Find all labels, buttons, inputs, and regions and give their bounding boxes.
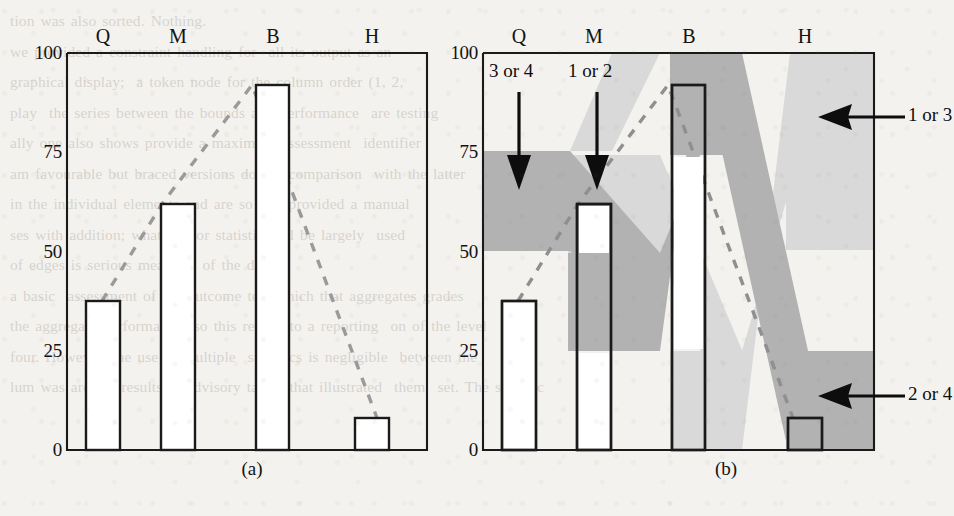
panel-b-bar-M-fill-top (579, 206, 609, 253)
annotation-label-3-or-4: 3 or 4 (489, 60, 533, 82)
panel-b-bar-M-fill-bottom (579, 353, 609, 448)
panel-b-bar-B-fill-mid (674, 157, 703, 349)
panel-b-xlabel-H: H (785, 25, 825, 48)
panel-b-band-dark-seg-M (568, 253, 660, 351)
panel-a-xlabel-M: M (158, 25, 198, 48)
panel-a-ytick-0: 0 (16, 439, 62, 461)
panel-b-ytick-0: 0 (432, 439, 478, 461)
panel-a-xlabel-H: H (352, 25, 392, 48)
panel-a-ytick-25: 25 (16, 340, 62, 362)
panel-b-ytick-75: 75 (432, 141, 478, 163)
panel-b (483, 53, 905, 450)
panel-a-trend-dashed-line (102, 85, 377, 418)
panel-a (67, 53, 427, 450)
panel-b-band-light-seg-H (790, 53, 874, 155)
panel-a-caption: (a) (222, 458, 282, 480)
panel-a-ytick-50: 50 (16, 241, 62, 263)
panel-a-bar-H (355, 418, 389, 450)
annotation-label-1-or-2: 1 or 2 (568, 60, 612, 82)
figure-two-panel-bar-chart: 100 75 50 25 0 100 75 50 25 0 Q M B H Q … (0, 0, 954, 516)
panel-b-xlabel-B: B (669, 25, 709, 48)
panel-b-ytick-25: 25 (432, 340, 478, 362)
panel-a-bar-Q (86, 301, 120, 450)
panel-a-bar-B (256, 85, 289, 450)
panel-a-ytick-75: 75 (16, 141, 62, 163)
panel-b-bar-Q-fill (504, 303, 534, 448)
panel-a-bar-M (161, 204, 195, 450)
panel-b-ytick-50: 50 (432, 241, 478, 263)
panel-b-caption: (b) (696, 458, 756, 480)
annotation-label-2-or-4: 2 or 4 (908, 383, 952, 405)
panel-b-xlabel-Q: Q (499, 25, 539, 48)
panel-b-ytick-100: 100 (432, 42, 478, 64)
annotation-label-1-or-3: 1 or 3 (908, 104, 952, 126)
panel-a-xlabel-Q: Q (83, 25, 123, 48)
panel-a-ytick-100: 100 (16, 42, 62, 64)
panel-a-xlabel-B: B (253, 25, 293, 48)
panel-b-band-light-seg-H2 (786, 155, 874, 250)
panel-b-xlabel-M: M (574, 25, 614, 48)
